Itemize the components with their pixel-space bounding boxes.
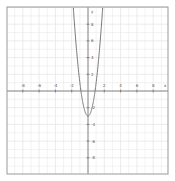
y-tick-label: -8 (91, 155, 95, 160)
y-tick-label: -6 (91, 139, 95, 144)
x-axis-label: x (164, 83, 167, 88)
x-tick-label: 6 (136, 83, 139, 88)
x-tick-label: -6 (37, 83, 41, 88)
x-tick-label: -8 (21, 83, 25, 88)
coordinate-plane: -8-6-4-224688642-2-4-6-8 x y (0, 0, 175, 181)
x-tick-label: 2 (103, 83, 106, 88)
y-axis-label: y (91, 9, 94, 14)
y-tick-label: -4 (91, 122, 95, 127)
x-tick-label: -2 (70, 83, 74, 88)
x-tick-label: 8 (152, 83, 155, 88)
x-tick-label: -4 (53, 83, 57, 88)
x-tick-label: 4 (119, 83, 122, 88)
